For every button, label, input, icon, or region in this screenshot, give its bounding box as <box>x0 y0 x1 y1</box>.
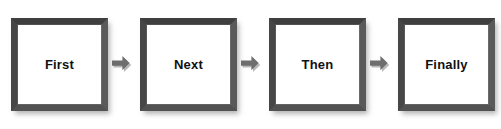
step-label-3: Then <box>302 58 334 71</box>
right-arrow-icon <box>370 55 394 75</box>
step-label-1: First <box>45 58 74 71</box>
flow-row: First Next Then <box>0 0 501 129</box>
step-box-1[interactable]: First <box>11 18 108 111</box>
step-label-2: Next <box>174 58 203 71</box>
step-box-2[interactable]: Next <box>140 18 237 111</box>
connector-2 <box>237 18 269 111</box>
right-arrow-icon <box>241 55 265 75</box>
process-flow-diagram: First Next Then <box>0 0 501 129</box>
right-arrow-icon <box>112 55 136 75</box>
step-label-4: Finally <box>425 58 468 71</box>
step-box-3[interactable]: Then <box>269 18 366 111</box>
connector-3 <box>366 18 398 111</box>
step-box-4[interactable]: Finally <box>398 18 495 111</box>
connector-1 <box>108 18 140 111</box>
